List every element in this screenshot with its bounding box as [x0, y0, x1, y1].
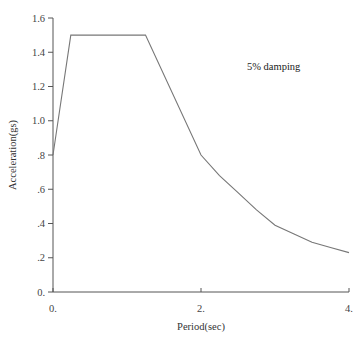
spectrum-curve	[53, 35, 349, 253]
x-axis-label: Period(sec)	[177, 321, 225, 333]
y-axis-label: Acceleration(gs)	[7, 120, 19, 190]
y-tick-label: 1.4	[32, 47, 46, 58]
y-tick-label: .4	[37, 218, 46, 229]
x-tick-label: 0.	[49, 303, 57, 314]
y-axis-ticks: 0..2.4.6.81.01.21.41.6	[32, 13, 53, 298]
y-tick-label: 1.2	[32, 81, 45, 92]
damping-annotation: 5% damping	[247, 61, 301, 72]
y-tick-label: .6	[37, 184, 45, 195]
x-tick-label: 2.	[197, 303, 205, 314]
chart-canvas: 0..2.4.6.81.01.21.41.6 0.2.4. 5% damping…	[0, 0, 360, 342]
x-tick-label: 4.	[345, 303, 353, 314]
y-tick-label: 1.0	[32, 115, 45, 126]
y-tick-label: 0.	[37, 287, 45, 298]
y-tick-label: .2	[37, 252, 45, 263]
y-tick-label: .8	[37, 150, 45, 161]
y-tick-label: 1.6	[32, 13, 45, 24]
